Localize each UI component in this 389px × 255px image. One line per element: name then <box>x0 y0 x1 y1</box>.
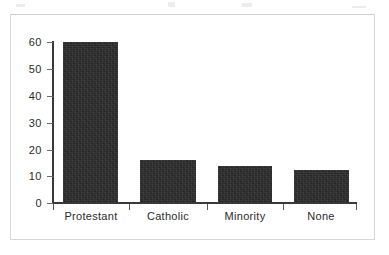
y-axis-tick <box>47 150 53 151</box>
y-axis-tick-label: 30 <box>14 118 42 129</box>
y-axis-tick <box>47 69 53 70</box>
x-axis-label-catholic: Catholic <box>130 210 206 223</box>
x-axis-label-protestant: Protestant <box>50 210 132 223</box>
y-axis-tick-label: 10 <box>14 171 42 182</box>
y-axis-tick-label: 50 <box>14 64 42 75</box>
y-axis-tick <box>47 96 53 97</box>
y-axis-tick-label: 60 <box>14 37 42 48</box>
bar-minority <box>218 166 272 203</box>
x-axis-label-none: None <box>284 210 358 223</box>
y-axis-tick <box>47 42 53 43</box>
y-axis-tick <box>47 123 53 124</box>
y-axis-tick-label: 0 <box>14 198 42 209</box>
y-axis-tick-label: 40 <box>14 91 42 102</box>
bar-none <box>294 170 349 203</box>
bar-protestant <box>63 42 118 203</box>
y-axis-tick <box>47 176 53 177</box>
y-axis-tick-label: 20 <box>14 145 42 156</box>
x-axis-label-minority: Minority <box>206 210 284 223</box>
bar-chart: 60 50 40 30 20 10 0 Protestant Catholic … <box>0 0 389 255</box>
bar-catholic <box>140 160 196 203</box>
